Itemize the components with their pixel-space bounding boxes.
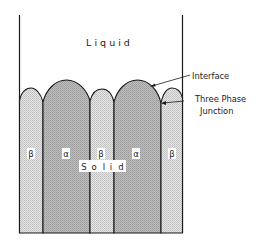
- solid-label: S o l i d: [79, 160, 126, 172]
- phase-symbol: α: [63, 149, 69, 159]
- solid-char: d: [118, 162, 123, 172]
- solid-char: S: [81, 162, 86, 172]
- solid-char: i: [110, 162, 112, 172]
- liquid-label: L i q u i d: [86, 37, 130, 48]
- phase-label-3: β: [97, 148, 105, 159]
- phase-symbol: β: [98, 149, 103, 159]
- phase-symbol: β: [28, 149, 33, 159]
- solid-char: l: [103, 162, 105, 172]
- three-phase-label: Three Phase: [194, 94, 246, 104]
- phase-label-4: α: [132, 148, 140, 159]
- beta-phase-1: [20, 88, 44, 233]
- phase-symbol: β: [169, 149, 174, 159]
- junction-label: Junction: [199, 106, 233, 116]
- phase-label-1: β: [27, 148, 35, 159]
- interface-leader-line: [152, 75, 190, 86]
- phase-label-2: α: [62, 148, 70, 159]
- eutectic-solidification-diagram: L i q u i d β α β α β S o l i d Interfac…: [0, 0, 261, 244]
- interface-label: Interface: [192, 71, 229, 81]
- phase-label-5: β: [168, 148, 176, 159]
- solid-char: o: [91, 162, 96, 172]
- beta-phase-3: [161, 88, 183, 233]
- phase-symbol: α: [133, 149, 139, 159]
